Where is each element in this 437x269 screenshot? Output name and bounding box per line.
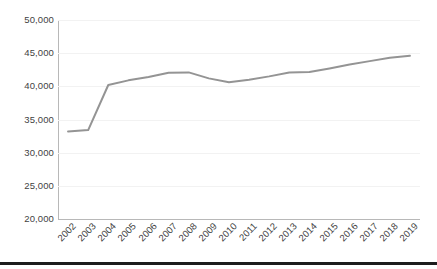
y-tick-label: 20,000 [2,214,54,224]
line-chart-figure: 20,00025,00030,00035,00040,00045,00050,0… [0,0,437,269]
x-axis-tick-labels: 2002200320042005200620072008200920102011… [58,221,420,267]
y-tick-label: 50,000 [2,15,54,25]
series-line-svg [58,20,420,219]
series-line-path [68,56,410,132]
x-axis-line [58,219,420,220]
y-tick-label: 30,000 [2,148,54,158]
y-tick-label: 25,000 [2,181,54,191]
y-tick-label: 35,000 [2,115,54,125]
y-tick-label: 40,000 [2,81,54,91]
y-axis-tick-labels: 20,00025,00030,00035,00040,00045,00050,0… [0,0,54,269]
y-tick-label: 45,000 [2,48,54,58]
bottom-divider-rule [0,262,437,265]
plot-area [58,20,420,219]
